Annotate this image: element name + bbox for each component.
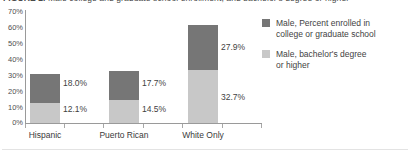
bar-value-label-bachelors: 14.5% [142,104,166,114]
bar-hispanic [30,74,60,123]
legend-label-line1: Male, bachelor's degree [276,49,410,60]
bar-segment-enrolled [109,71,139,100]
y-axis-line [25,10,26,123]
bar-value-label-enrolled: 17.7% [142,78,166,88]
bar-segment-enrolled [30,74,60,103]
bar-value-label-bachelors: 12.1% [63,104,87,114]
bar-value-label-enrolled: 18.0% [63,78,87,88]
figure-title-number: FIGURE 2. [3,0,45,3]
bar-puerto-rican [109,71,139,123]
bar-value-label-enrolled: 27.9% [221,42,245,52]
x-category-label-white-only: White Only [182,130,224,140]
x-axis-tick [64,124,65,128]
y-tick-label: 70% [8,8,23,16]
figure-title-text: Male college and graduate school enrollm… [48,0,349,3]
y-tick-label: 50% [8,40,23,48]
x-axis-tick [25,124,26,128]
plot-area: 70% 60% 50% 40% 30% 20% 10% 0% 18.0% 12.… [0,8,270,133]
y-tick-label: 60% [8,24,23,32]
bar-white-only [188,25,218,123]
x-axis-tick [182,124,183,128]
bar-value-label-bachelors: 32.7% [221,92,245,102]
legend-item-enrolled: Male, Percent enrolled in college or gra… [262,18,410,40]
x-category-label-puerto-rican: Puerto Rican [99,130,148,140]
x-axis-tick [103,124,104,128]
y-tick-label: 40% [8,56,23,64]
legend-item-bachelors: Male, bachelor's degree or higher [262,49,410,71]
bar-segment-bachelors [188,70,218,123]
y-tick-label: 30% [8,72,23,80]
legend-label-line1: Male, Percent enrolled in [276,18,410,29]
y-tick-label: 0% [12,119,23,127]
legend-label-line2: or higher [276,60,410,71]
x-axis-tick [261,124,262,128]
bar-segment-bachelors [30,103,60,123]
bar-segment-enrolled [188,25,218,70]
bottom-divider [2,149,408,150]
x-axis-tick [222,124,223,128]
y-axis-tick-labels: 70% 60% 50% 40% 30% 20% 10% 0% [0,8,23,124]
legend-swatch-icon [262,50,270,58]
x-axis-tick [143,124,144,128]
chart-figure: FIGURE 2. Male college and graduate scho… [0,0,410,154]
chart-legend: Male, Percent enrolled in college or gra… [262,18,410,80]
x-category-label-hispanic: Hispanic [29,130,62,140]
legend-label-line2: college or graduate school [276,29,410,40]
bar-segment-bachelors [109,100,139,123]
figure-title: FIGURE 2. Male college and graduate scho… [3,0,407,3]
legend-swatch-icon [262,19,270,27]
y-tick-label: 10% [8,104,23,112]
y-tick-label: 20% [8,88,23,96]
